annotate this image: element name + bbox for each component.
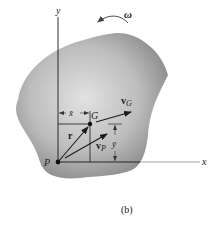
omega-label: ω [124,8,132,20]
p-label: P [43,157,50,168]
r-label: r [68,130,73,141]
y-axis-label: y [55,5,61,16]
rigid-body-shape [16,33,168,178]
x-axis-label: x [201,156,207,167]
g-label: G [91,110,98,121]
mass-center-point-g [88,122,92,126]
point-p [56,160,61,165]
rigid-body-kinematics-diagram: ω y x x̄ ȳ r vP vG G P (b) [0,0,219,231]
xbar-label: x̄ [68,108,74,118]
figure-caption: (b) [121,204,133,216]
